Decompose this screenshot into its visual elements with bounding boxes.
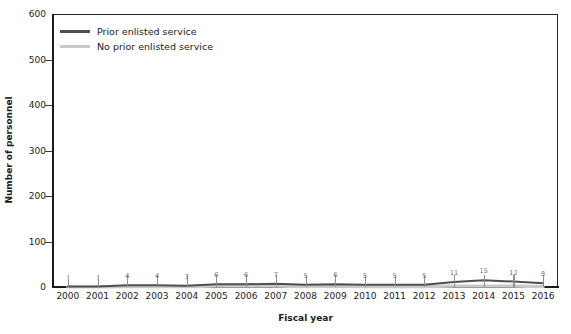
y-axis-tick-label: 0 [4, 282, 46, 292]
legend-item-no-prior-enlisted-service: No prior enlisted service [60, 39, 290, 54]
chart-legend: Prior enlisted service No prior enlisted… [60, 24, 290, 54]
y-axis-tick-label: 100 [4, 237, 46, 247]
x-axis-tick-label: 2016 [523, 291, 563, 301]
y-axis-tick-label: 200 [4, 191, 46, 201]
data-point-label: 1 [54, 274, 82, 282]
data-point-label: 6 [202, 271, 230, 279]
legend-label-prior-enlisted-service: Prior enlisted service [97, 26, 197, 37]
data-point-label: 6 [321, 271, 349, 279]
data-point-label: 5 [410, 272, 438, 280]
y-axis-tick-label: 400 [4, 100, 46, 110]
chart-page: Number of personnel 0100200300400500600 … [0, 0, 571, 334]
data-point-label: 11 [440, 269, 468, 277]
y-axis-tick-label: 500 [4, 55, 46, 65]
y-axis-tick-labels: 0100200300400500600 [0, 0, 46, 334]
data-point-label: 1 [84, 274, 112, 282]
y-axis-tick-label: 300 [4, 146, 46, 156]
legend-label-no-prior-enlisted-service: No prior enlisted service [97, 41, 213, 52]
legend-swatch-light [60, 45, 90, 48]
legend-item-prior-enlisted-service: Prior enlisted service [60, 24, 290, 39]
data-point-label: 6 [232, 271, 260, 279]
data-point-label: 3 [173, 273, 201, 281]
data-point-label: 12 [499, 269, 527, 277]
x-axis-tick [484, 275, 485, 287]
data-point-label: 15 [470, 267, 498, 275]
data-point-label: 5 [381, 272, 409, 280]
data-point-label: 7 [262, 271, 290, 279]
data-point-label: 5 [292, 272, 320, 280]
data-point-label: 4 [143, 272, 171, 280]
plot-frame [53, 14, 558, 287]
data-point-label: 8 [529, 270, 557, 278]
y-axis-line [52, 14, 54, 288]
y-axis-tick-label: 600 [4, 9, 46, 19]
data-point-label: 5 [351, 272, 379, 280]
legend-swatch-dark [60, 30, 90, 33]
data-point-label: 4 [113, 272, 141, 280]
x-axis-title: Fiscal year [53, 313, 558, 323]
x-axis-tick [513, 275, 514, 287]
